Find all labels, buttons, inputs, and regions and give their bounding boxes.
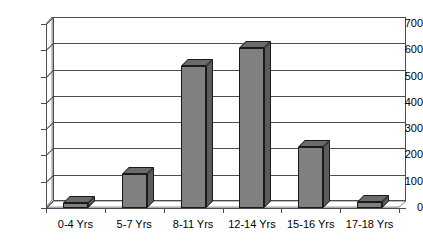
- bar-front-face: [357, 202, 382, 208]
- y-axis-tick-label: 500: [385, 71, 423, 82]
- bar: [63, 196, 88, 208]
- bar-front-face: [181, 66, 206, 208]
- bar-side-face: [264, 41, 271, 208]
- gridline: [53, 175, 406, 176]
- plot-area: 0100200300400500600700 0-4 Yrs5-7 Yrs8-1…: [0, 0, 423, 244]
- bar: [239, 41, 264, 208]
- x-axis-tick: [164, 209, 165, 213]
- gridline: [53, 43, 406, 44]
- bar-side-face: [147, 167, 154, 208]
- bar-chart: 0100200300400500600700 0-4 Yrs5-7 Yrs8-1…: [0, 0, 423, 244]
- gridline: [53, 96, 406, 97]
- x-axis-line: [46, 208, 406, 209]
- y-axis-tick-label: 100: [385, 176, 423, 187]
- x-axis-tick: [105, 209, 106, 213]
- back-wall: [53, 17, 406, 201]
- bar-front-face: [298, 147, 323, 208]
- bar: [357, 195, 382, 208]
- bar-side-face: [206, 59, 213, 208]
- x-axis-tick: [281, 209, 282, 213]
- x-axis-tick-label: 17-18 Yrs: [330, 218, 410, 230]
- y-axis-tick-label: 200: [385, 149, 423, 160]
- y-axis-tick-label: 700: [385, 18, 423, 29]
- y-axis-tick-label: 600: [385, 44, 423, 55]
- y-axis-tick-label: 300: [385, 123, 423, 134]
- gridline: [53, 148, 406, 149]
- gridline: [53, 17, 406, 18]
- bar: [298, 140, 323, 208]
- y-axis-back-line: [53, 17, 54, 201]
- floor-plane: [46, 201, 406, 208]
- x-axis-tick: [340, 209, 341, 213]
- bar: [181, 59, 206, 208]
- gridline: [53, 70, 406, 71]
- x-axis-tick: [223, 209, 224, 213]
- bar-front-face: [63, 203, 88, 208]
- bar-front-face: [239, 48, 264, 208]
- x-axis-tick: [46, 209, 47, 213]
- y-axis-tick-label: 0: [385, 202, 423, 213]
- y-axis-tick-label: 400: [385, 97, 423, 108]
- x-axis-tick: [399, 209, 400, 213]
- gridline: [53, 122, 406, 123]
- bar: [122, 167, 147, 208]
- bar-side-face: [323, 140, 330, 208]
- bar-front-face: [122, 174, 147, 208]
